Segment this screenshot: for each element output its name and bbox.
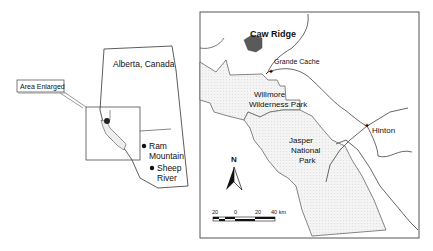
scale-tick-2: 0 xyxy=(234,209,237,215)
north-label: N xyxy=(231,155,237,164)
ram-mountain-label-2: Mountain xyxy=(149,151,184,161)
scale-tick-1: 20 xyxy=(212,209,218,215)
scale-tick-4: 40 km xyxy=(271,209,286,215)
jasper-label-3: Park xyxy=(299,156,316,165)
grande-cache-marker: ✦ xyxy=(268,68,274,75)
willmore-label-1: Willmore xyxy=(254,90,286,99)
detail-map: Caw Ridge ✦ Grande Cache ✦ Hinton Willmo… xyxy=(200,12,419,238)
ram-mountain-label-1: Ram xyxy=(149,141,167,151)
scale-tick-3: 20 xyxy=(255,209,261,215)
caw-ridge-label: Caw Ridge xyxy=(250,29,296,39)
sheep-river-label-1: Sheep xyxy=(157,163,182,173)
overview-map: Alberta, Canada Area Enlarged Ram Mounta… xyxy=(17,46,188,188)
map-figure: Alberta, Canada Area Enlarged Ram Mounta… xyxy=(0,0,433,251)
willmore-label-2: Wilderness Park xyxy=(249,100,308,109)
jasper-label-2: National xyxy=(291,146,321,155)
province-label: Alberta, Canada xyxy=(113,59,175,69)
jasper-label-1: Jasper xyxy=(289,136,313,145)
sheep-river-label-2: River xyxy=(157,173,177,183)
hinton-label: Hinton xyxy=(372,126,395,135)
area-enlarged-label: Area Enlarged xyxy=(20,83,65,91)
grande-cache-label: Grande Cache xyxy=(274,58,320,65)
caw-ridge-marker-small xyxy=(104,118,110,124)
hinton-marker: ✦ xyxy=(364,122,370,129)
sheep-river-marker xyxy=(150,166,154,170)
ram-mountain-marker xyxy=(142,144,146,148)
